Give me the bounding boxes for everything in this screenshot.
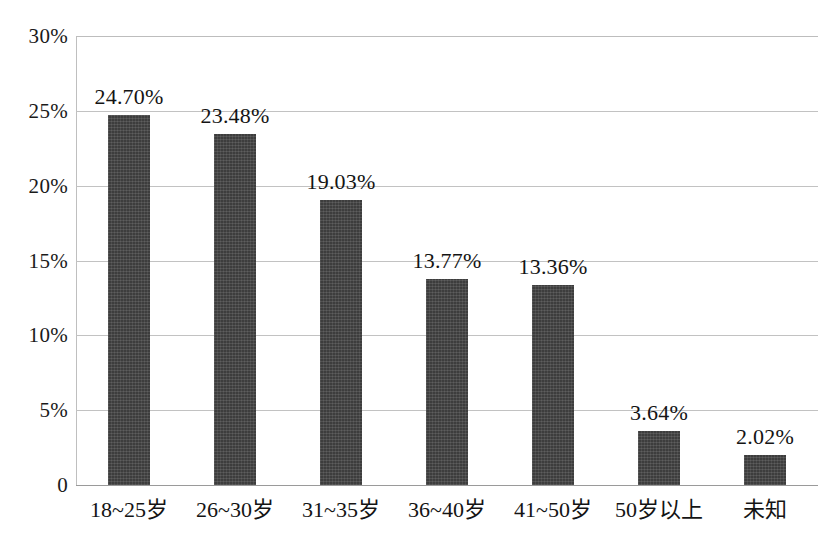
bar-value-label: 24.70%	[94, 86, 163, 108]
bar-value-label: 23.48%	[200, 105, 269, 127]
bar-value-label: 19.03%	[306, 171, 375, 193]
plot-area: 24.70%23.48%19.03%13.77%13.36%3.64%2.02%	[76, 36, 818, 485]
x-axis-tick-label: 未知	[712, 497, 818, 523]
bar[interactable]	[532, 285, 574, 485]
bar-group: 13.36%	[500, 36, 606, 485]
y-axis-tick-label: 5%	[4, 400, 68, 421]
x-axis-tick-label: 36~40岁	[394, 497, 500, 523]
y-axis-tick-label: 0	[4, 475, 68, 496]
y-axis-tick-label: 10%	[4, 325, 68, 346]
bar-group: 13.77%	[394, 36, 500, 485]
bar-value-label: 13.36%	[518, 256, 587, 278]
x-axis-tick-label: 41~50岁	[500, 497, 606, 523]
x-axis-tick-label: 31~35岁	[288, 497, 394, 523]
bar[interactable]	[108, 115, 150, 485]
x-axis-baseline	[76, 485, 818, 486]
bar-value-label: 2.02%	[736, 426, 794, 448]
y-axis-tick-label: 20%	[4, 175, 68, 196]
y-axis-tick-label: 30%	[4, 26, 68, 47]
bar[interactable]	[744, 455, 786, 485]
bar-group: 23.48%	[182, 36, 288, 485]
bar[interactable]	[214, 134, 256, 485]
bar-group: 24.70%	[76, 36, 182, 485]
bar-group: 3.64%	[606, 36, 712, 485]
bar-value-label: 3.64%	[630, 402, 688, 424]
bar[interactable]	[320, 200, 362, 485]
x-axis-tick-label: 26~30岁	[182, 497, 288, 523]
x-axis-tick-label: 50岁以上	[606, 497, 712, 523]
y-axis-tick-label: 25%	[4, 100, 68, 121]
bar[interactable]	[426, 279, 468, 485]
bar[interactable]	[638, 431, 680, 485]
y-axis-tick-label: 15%	[4, 250, 68, 271]
x-axis-tick-label: 18~25岁	[76, 497, 182, 523]
x-axis-tick-labels: 18~25岁26~30岁31~35岁36~40岁41~50岁50岁以上未知	[76, 497, 818, 537]
bar-value-label: 13.77%	[412, 250, 481, 272]
y-axis-tick-labels: 30%25%20%15%10%5%0	[0, 0, 68, 550]
bar-group: 19.03%	[288, 36, 394, 485]
bar-group: 2.02%	[712, 36, 818, 485]
bar-chart: 30%25%20%15%10%5%0 24.70%23.48%19.03%13.…	[0, 0, 837, 550]
